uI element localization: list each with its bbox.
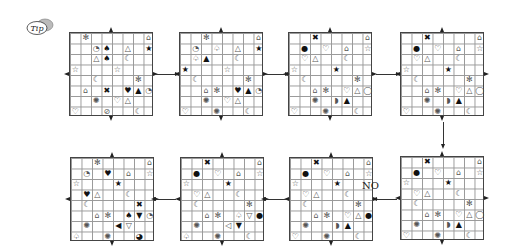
grid-symbol: ◗ [443, 220, 454, 231]
grid-symbol: ▼ [134, 211, 145, 222]
axis-tick-icon [110, 152, 114, 157]
grid-symbol: ▲ [343, 221, 354, 232]
grid-symbol: ♠ [102, 54, 113, 65]
grid-symbol: ✺ [301, 221, 312, 232]
grid-symbol: ♡ [112, 96, 123, 107]
grid-symbol: ♡ [289, 107, 300, 118]
grid-symbol: ☾ [82, 200, 93, 211]
grid-symbol: ☆ [289, 65, 300, 76]
axis-tick-icon [484, 72, 489, 76]
grid-symbol: ✻ [353, 200, 364, 211]
grid-symbol: △ [464, 86, 475, 97]
grid-symbol: ☾ [352, 107, 363, 118]
grid-symbol: ⌂ [343, 169, 354, 180]
grid-symbol: ☾ [123, 54, 134, 65]
flow-arrow-icon [377, 199, 397, 200]
grid-symbol: ☾ [464, 107, 475, 118]
grid-symbol: ▽ [124, 221, 135, 232]
grid-symbol: ⌂ [310, 86, 321, 97]
grid-symbol: ✻ [201, 33, 212, 44]
grid-symbol: ✺ [412, 220, 423, 231]
arrowhead-icon [441, 144, 445, 149]
puzzle-grid-2: ✻⌂◔♤△★♤▲☾★☆☾✻⌂✻♥▲◔✺♡△♡✺☾ [179, 32, 263, 116]
grid-symbol: ● [192, 169, 203, 180]
grid-symbol: ☆ [145, 169, 156, 180]
axis-tick-icon [109, 27, 113, 32]
grid-symbol: ▲ [133, 86, 144, 97]
grid-symbol: ♡ [301, 190, 312, 201]
grid-symbol: ✻ [92, 158, 103, 169]
grid-symbol: ♥ [82, 190, 93, 201]
grid-symbol: ☾ [133, 107, 144, 118]
grid-symbol: ♡ [322, 169, 333, 180]
axis-tick-icon [64, 72, 69, 76]
grid-symbol: ★ [331, 65, 342, 76]
grid-symbol: ◔ [145, 211, 156, 222]
grid-symbol: ✖ [422, 33, 433, 44]
axis-tick-icon [440, 151, 444, 156]
grid-symbol: ☾ [91, 75, 102, 86]
puzzle-grid-3: ✖⌂●♡⌂☆♡△☾☆★☾✻⌂✻♡△◯✺◗▲♡✺☾ [288, 32, 372, 116]
grid-symbol: ⌂ [81, 86, 92, 97]
puzzle-grid-1: ✻⌂◔♠△★△♠☾☆☆☾✻⌂✖♥▲◔✺♡△♡⊘☾ [69, 32, 153, 116]
grid-symbol: ♡ [290, 232, 301, 243]
grid-symbol: ◗ [332, 221, 343, 232]
grid-symbol: ♤ [212, 44, 223, 55]
grid-symbol: ⌂ [145, 158, 156, 169]
grid-symbol: ▽ [244, 211, 255, 222]
grid-symbol: ✺ [192, 221, 203, 232]
grid-symbol: △ [123, 44, 134, 55]
grid-symbol: ⌂ [364, 158, 375, 169]
grid-symbol: ☆ [222, 65, 233, 76]
grid-symbol: ◯ [475, 210, 486, 221]
axis-tick-icon [219, 116, 223, 121]
grid-symbol: ✺ [201, 96, 212, 107]
grid-symbol: ⌂ [475, 33, 486, 44]
grid-symbol: ☾ [300, 75, 311, 86]
grid-symbol: △ [422, 54, 433, 65]
grid-symbol: ● [364, 211, 375, 222]
grid-symbol: △ [310, 54, 321, 65]
grid-symbol: ☆ [363, 44, 374, 55]
grid-symbol: ☾ [412, 75, 423, 86]
grid-symbol: ✻ [213, 211, 224, 222]
grid-symbol: ▲ [454, 96, 465, 107]
grid-symbol: ▼ [234, 221, 245, 232]
grid-symbol: ♠ [124, 211, 135, 222]
grid-symbol: ⌂ [363, 33, 374, 44]
grid-symbol: ⌂ [124, 169, 135, 180]
grid-symbol: ✖ [311, 158, 322, 169]
grid-symbol: ⌂ [422, 210, 433, 221]
grid-symbol: ◗ [443, 96, 454, 107]
flow-arrow-icon [156, 199, 176, 200]
grid-symbol: ⌂ [454, 168, 465, 179]
grid-symbol: ✻ [244, 200, 255, 211]
grid-symbol: ✖ [134, 200, 145, 211]
grid-symbol: ⌂ [144, 33, 155, 44]
grid-symbol: ☾ [342, 54, 353, 65]
grid-symbol: ✻ [352, 75, 363, 86]
grid-symbol: ♠ [102, 44, 113, 55]
grid-symbol: ✻ [103, 211, 114, 222]
grid-symbol: △ [123, 96, 134, 107]
grid-symbol: ★ [443, 178, 454, 189]
axis-tick-icon [220, 241, 224, 246]
grid-symbol: ♥ [123, 86, 134, 97]
axis-tick-icon [328, 27, 332, 32]
grid-symbol: ☾ [464, 231, 475, 242]
grid-symbol: △ [92, 190, 103, 201]
grid-symbol: △ [352, 86, 363, 97]
grid-symbol: ♡ [454, 86, 465, 97]
grid-symbol: ☾ [412, 199, 423, 210]
grid-symbol: ☆ [71, 179, 82, 190]
grid-symbol: ⌂ [202, 211, 213, 222]
grid-symbol: △ [202, 190, 213, 201]
grid-symbol: ◯ [363, 86, 374, 97]
arrowhead-icon [175, 72, 180, 76]
flow-arrow-icon [155, 74, 175, 75]
grid-symbol: ♡ [433, 44, 444, 55]
axis-tick-icon [484, 196, 489, 200]
grid-symbol: ★ [180, 65, 191, 76]
grid-symbol: ★ [144, 44, 155, 55]
grid-symbol: ☾ [244, 232, 255, 243]
